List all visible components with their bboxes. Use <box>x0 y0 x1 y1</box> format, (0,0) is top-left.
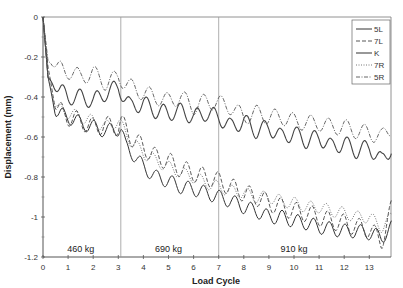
y-tick-label: -0.4 <box>24 93 38 102</box>
series-k <box>43 17 391 159</box>
y-axis-title: Displacement (mm) <box>3 95 13 178</box>
legend-label-7r: 7R <box>374 61 384 70</box>
y-tick-label: -0.6 <box>24 133 38 142</box>
load-label: 460 kg <box>67 244 94 254</box>
chart-container: 0123456789101112130-0.2-0.4-0.6-0.8-1-1.… <box>0 0 403 288</box>
y-tick-label: -1 <box>31 213 39 222</box>
x-tick-label: 11 <box>315 263 324 272</box>
x-tick-label: 12 <box>340 263 349 272</box>
axis-ticks: 0123456789101112130-0.2-0.4-0.6-0.8-1-1.… <box>24 13 374 272</box>
line-chart: 0123456789101112130-0.2-0.4-0.6-0.8-1-1.… <box>0 0 403 288</box>
legend-label-5l: 5L <box>374 25 383 34</box>
x-tick-label: 1 <box>66 263 71 272</box>
series-7r <box>43 17 391 233</box>
series-7l <box>43 17 391 248</box>
x-tick-label: 8 <box>242 263 247 272</box>
x-tick-label: 13 <box>365 263 374 272</box>
load-label: 690 kg <box>155 244 182 254</box>
x-tick-label: 3 <box>116 263 121 272</box>
x-tick-label: 0 <box>41 263 46 272</box>
x-tick-label: 10 <box>290 263 299 272</box>
legend: 5L7LK7R5R <box>352 20 390 84</box>
x-tick-label: 4 <box>141 263 146 272</box>
y-tick-label: -1.2 <box>24 253 38 262</box>
legend-label-7l: 7L <box>374 37 383 46</box>
legend-box <box>352 20 390 84</box>
x-tick-label: 5 <box>166 263 171 272</box>
x-axis-title: Load Cycle <box>192 276 240 286</box>
y-tick-label: 0 <box>34 13 39 22</box>
legend-label-5r: 5R <box>374 73 384 82</box>
load-label: 910 kg <box>280 244 307 254</box>
legend-label-k: K <box>374 49 380 58</box>
plot-area <box>43 17 391 257</box>
x-tick-label: 7 <box>216 263 221 272</box>
x-tick-label: 9 <box>267 263 272 272</box>
y-tick-label: -0.8 <box>24 173 38 182</box>
series-layer <box>43 17 391 248</box>
series-5l <box>43 17 391 242</box>
x-tick-label: 2 <box>91 263 96 272</box>
x-tick-label: 6 <box>191 263 196 272</box>
load-annotations: 460 kg690 kg910 kg <box>67 244 307 254</box>
y-tick-label: -0.2 <box>24 53 38 62</box>
